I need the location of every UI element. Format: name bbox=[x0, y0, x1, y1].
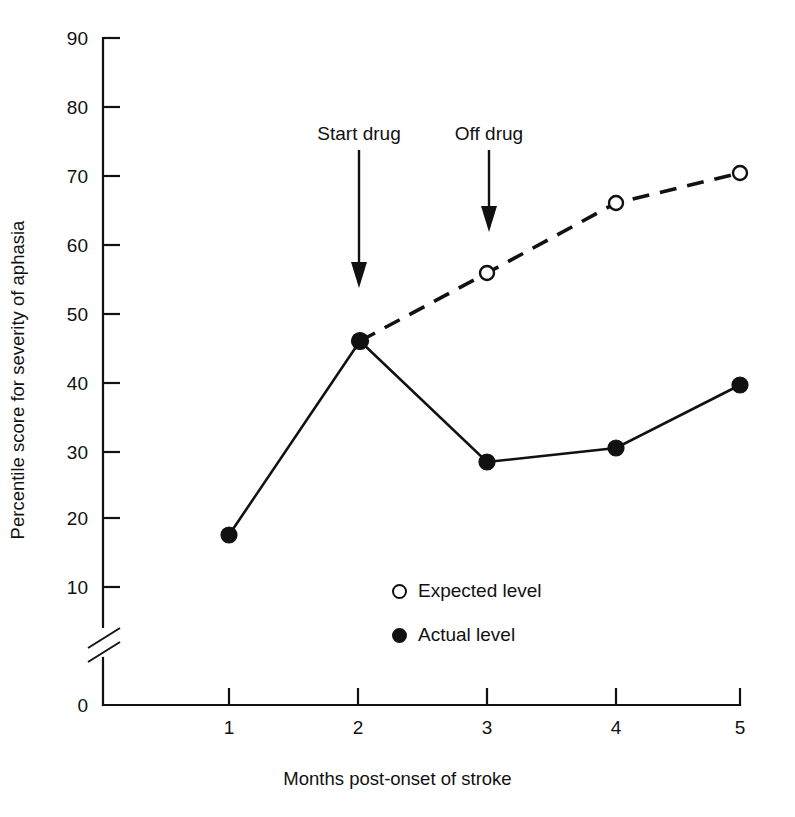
data-point-expected bbox=[480, 266, 494, 280]
legend-item-expected: Expected level bbox=[392, 580, 542, 602]
x-tick-label: 5 bbox=[735, 718, 746, 737]
annotation-arrow-off-drug bbox=[481, 150, 497, 232]
x-tick-label: 1 bbox=[224, 718, 235, 737]
annotation-label-start-drug: Start drug bbox=[317, 123, 400, 145]
annotation-label-off-drug: Off drug bbox=[455, 123, 523, 145]
chart-figure: 90 80 70 60 50 40 30 20 10 0 1 2 3 4 5 P… bbox=[0, 0, 795, 817]
y-tick-label: 70 bbox=[48, 167, 88, 186]
y-axis-ticks bbox=[103, 38, 120, 587]
x-tick-label: 2 bbox=[353, 718, 364, 737]
x-axis-title: Months post-onset of stroke bbox=[0, 768, 795, 790]
data-point-actual bbox=[732, 377, 748, 393]
x-tick-label: 4 bbox=[611, 718, 622, 737]
data-point-actual bbox=[352, 333, 369, 350]
y-tick-label: 90 bbox=[48, 29, 88, 48]
series-line-actual bbox=[229, 341, 740, 535]
y-tick-label: 0 bbox=[48, 696, 88, 715]
y-axis-title: Percentile score for severity of aphasia bbox=[7, 221, 29, 540]
legend-label: Actual level bbox=[418, 624, 515, 646]
y-tick-label: 20 bbox=[48, 509, 88, 528]
series-line-expected bbox=[360, 173, 740, 341]
y-tick-label: 80 bbox=[48, 98, 88, 117]
annotation-arrow-start-drug bbox=[351, 150, 367, 288]
y-tick-label: 50 bbox=[48, 305, 88, 324]
x-axis-ticks bbox=[229, 688, 740, 705]
y-tick-label: 30 bbox=[48, 443, 88, 462]
x-tick-label: 3 bbox=[482, 718, 493, 737]
y-tick-label: 10 bbox=[48, 578, 88, 597]
chart-legend: Expected level Actual level bbox=[392, 580, 542, 646]
series-markers-expected bbox=[480, 166, 747, 280]
y-tick-label: 60 bbox=[48, 236, 88, 255]
filled-circle-icon bbox=[392, 628, 407, 643]
data-point-expected bbox=[733, 166, 747, 180]
legend-item-actual: Actual level bbox=[392, 624, 542, 646]
series-markers-actual bbox=[221, 333, 748, 544]
data-point-expected bbox=[609, 196, 623, 210]
data-point-actual bbox=[479, 454, 495, 470]
open-circle-icon bbox=[392, 584, 407, 599]
data-point-actual bbox=[221, 527, 237, 543]
legend-label: Expected level bbox=[418, 580, 542, 602]
y-tick-label: 40 bbox=[48, 374, 88, 393]
data-point-actual bbox=[608, 440, 624, 456]
